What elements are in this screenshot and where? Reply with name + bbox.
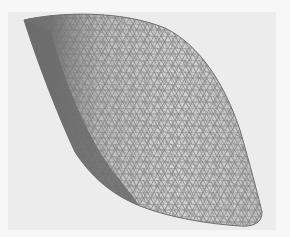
wireframe-mesh (0, 0, 290, 237)
